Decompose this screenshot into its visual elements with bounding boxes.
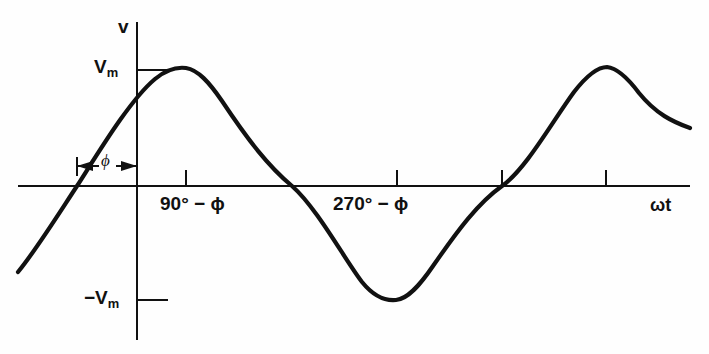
- y-tick-label-negative-vm: −Vm: [84, 288, 119, 311]
- x-tick-label-270-minus-phi: 270° − ϕ: [333, 194, 408, 213]
- y-tick-label-vm: Vm: [94, 57, 118, 80]
- y-tick-label-negative-vm-subscript: m: [108, 296, 119, 311]
- sine-waveform-curve: [18, 67, 690, 300]
- waveform-figure: | --> v Vm −Vm ϕ 90° − ϕ 270° − ϕ ωt: [0, 0, 709, 354]
- x-tick-label-90-minus-phi: 90° − ϕ: [160, 194, 225, 213]
- phase-shift-label: ϕ: [101, 152, 110, 169]
- y-tick-label-vm-main: V: [94, 56, 107, 77]
- x-axis-label: ωt: [650, 196, 671, 214]
- y-axis-label: v: [118, 17, 129, 36]
- y-tick-label-vm-subscript: m: [107, 65, 118, 80]
- phi-right-arrow-head: [121, 161, 137, 171]
- y-tick-label-negative-vm-main: −V: [84, 287, 108, 308]
